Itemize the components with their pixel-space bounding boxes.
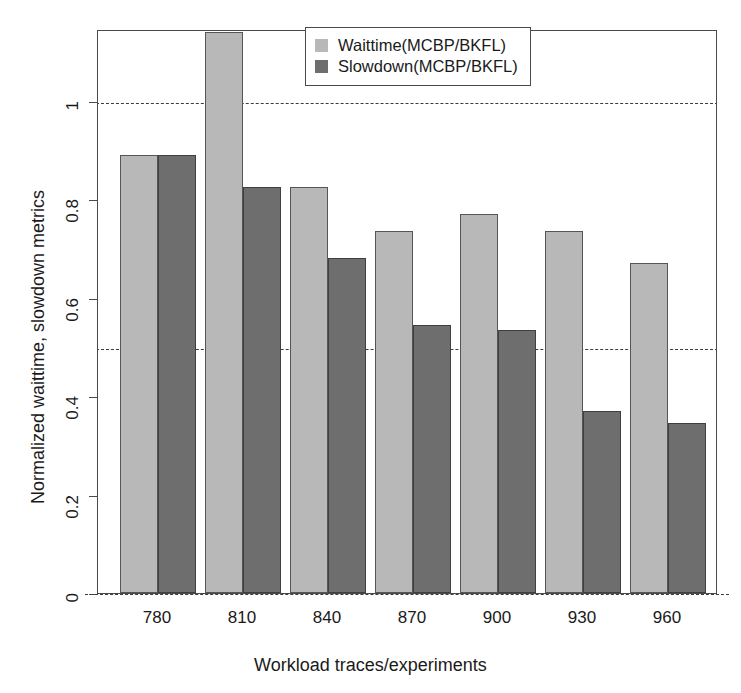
bar-870-slowdown — [413, 325, 451, 593]
y-axis-title: Normalized waittime, slowdown metrics — [28, 137, 49, 557]
plot-area — [98, 31, 716, 593]
bar-810-waittime — [205, 32, 243, 593]
bar-840-waittime — [290, 187, 328, 593]
x-tick-label-870: 870 — [372, 608, 452, 628]
bar-840-slowdown — [328, 258, 366, 593]
legend-entry-slowdown: Slowdown(MCBP/BKFL) — [315, 56, 518, 77]
baseline-reference-line — [85, 594, 729, 595]
y-tick-mark — [89, 397, 97, 398]
bar-chart-figure: Normalized waittime, slowdown metrics 00… — [0, 0, 741, 693]
bar-960-waittime — [630, 263, 668, 593]
y-tick-mark — [89, 299, 97, 300]
x-axis-title: Workload traces/experiments — [0, 655, 741, 676]
x-tick-label-900: 900 — [457, 608, 537, 628]
y-tick-label: 0 — [63, 593, 83, 602]
x-tick-label-840: 840 — [287, 608, 367, 628]
legend-swatch-slowdown-icon — [315, 60, 328, 73]
bar-780-slowdown — [158, 155, 196, 593]
bar-960-slowdown — [668, 423, 706, 593]
x-tick-label-960: 960 — [627, 608, 707, 628]
legend-entry-waittime: Waittime(MCBP/BKFL) — [315, 35, 518, 56]
y-tick-label: 0.2 — [63, 495, 83, 519]
y-tick-mark — [89, 102, 97, 103]
reference-line — [97, 103, 717, 104]
y-tick-label: 0.6 — [63, 298, 83, 322]
plot-area-frame — [97, 30, 717, 594]
bar-930-slowdown — [583, 411, 621, 593]
y-tick-label: 0.4 — [63, 396, 83, 420]
bar-900-waittime — [460, 214, 498, 593]
x-tick-label-810: 810 — [202, 608, 282, 628]
bar-810-slowdown — [243, 187, 281, 593]
legend-label-slowdown: Slowdown(MCBP/BKFL) — [338, 57, 518, 76]
bar-930-waittime — [545, 231, 583, 593]
x-tick-label-930: 930 — [542, 608, 622, 628]
legend-swatch-waittime-icon — [315, 39, 328, 52]
y-tick-label: 0.8 — [63, 199, 83, 223]
legend-label-waittime: Waittime(MCBP/BKFL) — [338, 36, 506, 55]
bar-780-waittime — [120, 155, 158, 593]
y-tick-mark — [89, 200, 97, 201]
chart-legend: Waittime(MCBP/BKFL) Slowdown(MCBP/BKFL) — [305, 27, 531, 86]
bar-870-waittime — [375, 231, 413, 593]
x-tick-label-780: 780 — [117, 608, 197, 628]
y-tick-mark — [89, 496, 97, 497]
y-tick-label: 1 — [63, 101, 83, 110]
bar-900-slowdown — [498, 330, 536, 593]
